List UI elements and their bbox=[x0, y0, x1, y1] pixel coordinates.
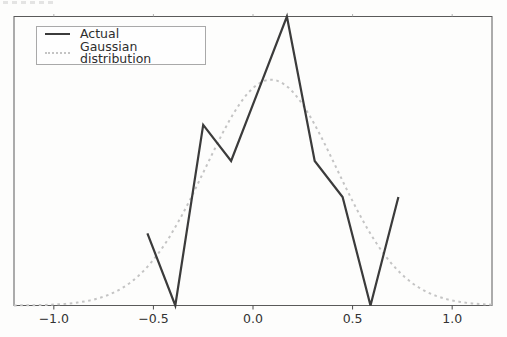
x-axis-labels: −1.0−0.50.00.51.0 bbox=[39, 311, 462, 326]
solid-line-swatch bbox=[45, 33, 70, 35]
x-tick-label: 0.5 bbox=[343, 311, 363, 326]
dotted-line-swatch bbox=[45, 52, 70, 54]
x-tick-label: 0.0 bbox=[243, 311, 263, 326]
gaussian-curve bbox=[14, 80, 492, 306]
legend: Actual Gaussian distribution bbox=[36, 26, 206, 65]
x-tick-label: −1.0 bbox=[39, 311, 69, 326]
legend-label: Gaussian distribution bbox=[80, 41, 205, 66]
x-tick-label: 1.0 bbox=[442, 311, 462, 326]
figure: −1.0−0.50.00.51.0 Actual Gaussian distri… bbox=[0, 0, 507, 337]
x-tick-label: −0.5 bbox=[138, 311, 168, 326]
legend-entry-gaussian: Gaussian distribution bbox=[37, 41, 205, 66]
